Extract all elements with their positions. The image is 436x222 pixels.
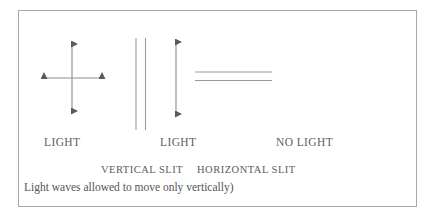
label-light-middle: LIGHT	[160, 136, 197, 148]
unpolarized-wave-cross-icon	[44, 44, 102, 111]
label-horizontal-slit: HORIZONTAL SLIT	[197, 164, 296, 175]
label-light-left: LIGHT	[44, 136, 81, 148]
label-vertical-slit: VERTICAL SLIT	[101, 164, 183, 175]
horizontal-slit-icon	[195, 72, 272, 81]
figure-canvas: LIGHT LIGHT NO LIGHT VERTICAL SLIT HORIZ…	[0, 0, 436, 222]
label-no-light: NO LIGHT	[276, 136, 333, 148]
vertical-slit-icon	[136, 38, 146, 130]
figure-caption: Light waves allowed to move only vertica…	[24, 181, 234, 193]
